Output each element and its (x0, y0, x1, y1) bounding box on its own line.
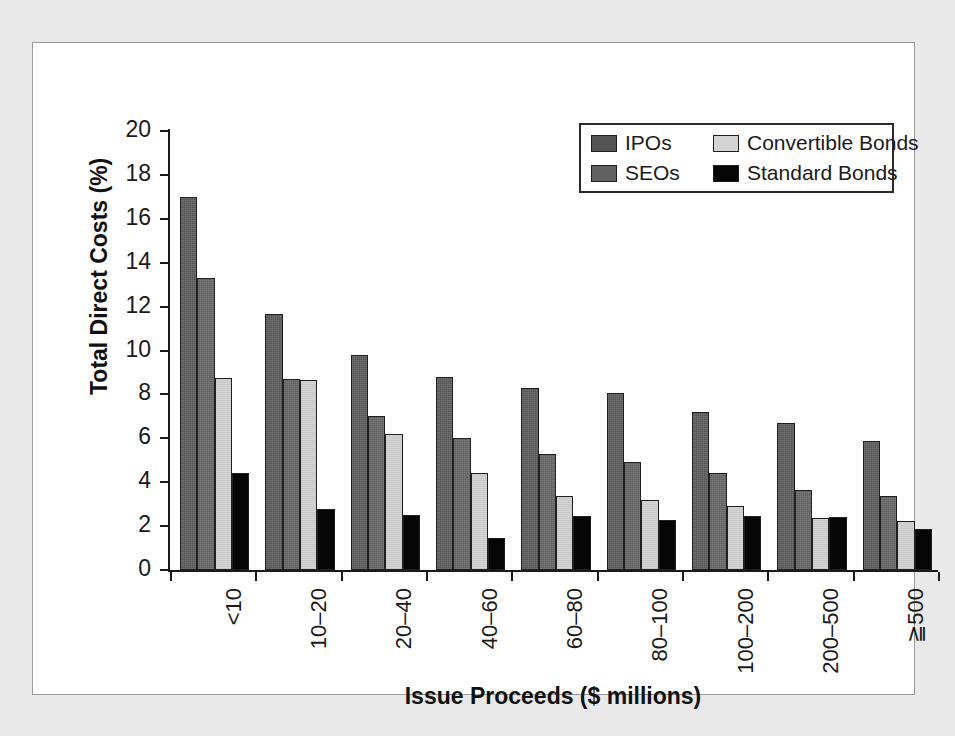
bar-ipos-6 (692, 412, 709, 570)
y-axis-tick-label: 12 (125, 293, 151, 317)
bar-convertible-bonds-2 (385, 434, 402, 570)
y-axis-tick-label: 10 (125, 337, 151, 361)
y-axis-tick-label: 4 (138, 468, 151, 492)
bar-standard-bonds-6 (744, 516, 761, 570)
legend-label-ipos: IPOs (625, 132, 672, 154)
x-axis-tick-mark (853, 572, 855, 581)
legend-label-seos: SEOs (625, 162, 680, 184)
figure-root: 02468101214161820 <1010–2020–4040–6060–8… (0, 0, 955, 736)
y-axis-tick-label: 18 (125, 161, 151, 185)
x-axis-category-label: <10 (223, 588, 245, 625)
x-axis-tick-mark (341, 572, 343, 581)
bar-ipos-0 (180, 197, 197, 570)
y-axis-tick-label: 8 (138, 380, 151, 404)
y-axis-tick-label: 14 (125, 249, 151, 273)
x-axis-tick-mark (511, 572, 513, 581)
bar-convertible-bonds-7 (812, 518, 829, 570)
bar-convertible-bonds-3 (471, 473, 488, 570)
legend-entry-ipos: IPOs (591, 132, 713, 154)
y-axis-tick-label: 16 (125, 205, 151, 229)
x-axis-tick-mark (682, 572, 684, 581)
chart-panel: 02468101214161820 <1010–2020–4040–6060–8… (32, 42, 915, 695)
legend-swatch-icon-convertible-bonds (713, 135, 739, 152)
x-axis-category-label: 10–20 (308, 588, 330, 649)
x-axis-category-label: 100–200 (735, 588, 757, 674)
legend-label-convertible-bonds: Convertible Bonds (747, 132, 919, 154)
bar-seos-0 (197, 278, 214, 570)
y-axis-tick-label: 0 (138, 556, 151, 580)
bar-convertible-bonds-8 (897, 521, 914, 570)
legend-entry-standard-bonds: Standard Bonds (713, 162, 906, 184)
bar-convertible-bonds-5 (641, 500, 658, 570)
y-axis-tick-label: 2 (138, 512, 151, 536)
bar-seos-2 (368, 416, 385, 570)
bar-seos-6 (709, 473, 726, 570)
x-axis-title: Issue Proceeds ($ millions) (168, 683, 938, 710)
bar-seos-1 (283, 379, 300, 570)
bar-seos-3 (453, 438, 470, 570)
x-axis-category-label: ≧500 (905, 588, 927, 643)
y-axis-tick-label: 6 (138, 424, 151, 448)
bar-standard-bonds-8 (915, 529, 932, 570)
bar-standard-bonds-5 (659, 520, 676, 570)
bar-convertible-bonds-6 (727, 506, 744, 570)
bar-standard-bonds-7 (829, 517, 846, 570)
bar-seos-8 (880, 496, 897, 570)
bar-seos-7 (795, 490, 812, 570)
bar-ipos-4 (521, 388, 538, 570)
chart-legend: IPOs Convertible Bonds SEOs Standard Bon… (579, 123, 894, 193)
x-axis-line (168, 570, 938, 572)
bar-ipos-5 (607, 393, 624, 570)
bar-seos-4 (539, 454, 556, 570)
x-axis-tick-mark (938, 572, 940, 581)
legend-swatch-icon-ipos (591, 135, 617, 152)
x-axis-tick-mark (767, 572, 769, 581)
bar-ipos-1 (265, 314, 282, 570)
bar-ipos-3 (436, 377, 453, 570)
bar-convertible-bonds-0 (215, 378, 232, 570)
bar-standard-bonds-3 (488, 538, 505, 570)
x-axis-category-label: 80–100 (649, 588, 671, 661)
bar-ipos-7 (777, 423, 794, 570)
x-axis-category-label: 200–500 (820, 588, 842, 674)
legend-label-standard-bonds: Standard Bonds (747, 162, 898, 184)
x-axis-category-label: 20–40 (393, 588, 415, 649)
legend-swatch-icon-standard-bonds (713, 165, 739, 182)
x-axis-tick-mark (426, 572, 428, 581)
bar-standard-bonds-2 (403, 515, 420, 570)
x-axis-category-label: 40–60 (479, 588, 501, 649)
legend-swatch-icon-seos (591, 165, 617, 182)
bar-convertible-bonds-4 (556, 496, 573, 570)
bar-seos-5 (624, 462, 641, 570)
y-axis-tick-label: 20 (125, 117, 151, 141)
x-axis-tick-mark (597, 572, 599, 581)
bar-ipos-2 (351, 355, 368, 570)
x-axis-tick-mark (170, 572, 172, 581)
bar-convertible-bonds-1 (300, 380, 317, 570)
bar-standard-bonds-4 (573, 516, 590, 570)
x-axis-tick-mark (255, 572, 257, 581)
bar-standard-bonds-1 (317, 509, 334, 570)
legend-entry-seos: SEOs (591, 162, 713, 184)
x-axis-category-label: 60–80 (564, 588, 586, 649)
plot-area (168, 131, 936, 570)
bar-ipos-8 (863, 441, 880, 571)
y-axis-title: Total Direct Costs (%) (87, 158, 111, 395)
bar-standard-bonds-0 (232, 473, 249, 570)
legend-entry-convertible-bonds: Convertible Bonds (713, 132, 906, 154)
